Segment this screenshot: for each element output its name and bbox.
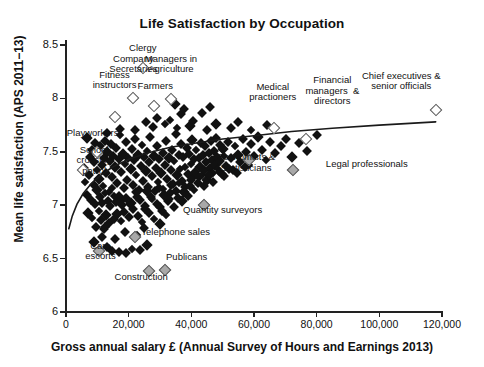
highlighted-point-fitness-instructors[interactable] — [108, 110, 121, 123]
x-tick-label: 40,000 — [175, 318, 207, 330]
data-point — [247, 126, 255, 134]
x-tick-label: 0 — [63, 318, 69, 330]
x-tick-label: 20,000 — [113, 318, 145, 330]
x-tick-label: 80,000 — [301, 318, 333, 330]
y-tick-label: 7.5 — [10, 145, 58, 157]
annotation-label: Fitness instructors — [93, 70, 137, 91]
data-point — [145, 132, 155, 142]
y-tick — [60, 151, 66, 153]
x-tick — [191, 311, 193, 317]
y-axis-line — [65, 40, 67, 313]
annotation-label: Quantity surveyors — [183, 205, 262, 216]
annotation-label: Farmers — [138, 81, 173, 92]
annotation-label: Care escorts — [85, 241, 116, 262]
data-point — [252, 131, 263, 142]
scatter-chart: Life Satisfaction by Occupation Mean lif… — [0, 0, 484, 367]
annotation-label: Telephone sales — [141, 227, 210, 238]
annotation-label: Chief executives & senior officials — [362, 71, 441, 92]
data-point — [247, 139, 257, 149]
y-tick — [60, 258, 66, 260]
annotation-label: School crossing patrol — [77, 145, 112, 177]
data-point — [152, 113, 162, 123]
annotation-label: Legal professionals — [326, 159, 408, 170]
x-tick — [379, 311, 381, 317]
highlighted-point-chief-executives-senior-officials[interactable] — [429, 104, 442, 117]
data-point — [197, 108, 207, 118]
annotation-label: Medical practioners — [249, 82, 296, 103]
data-point — [233, 117, 243, 127]
data-point — [116, 217, 124, 225]
data-point — [202, 125, 212, 135]
x-tick — [316, 311, 318, 317]
data-point — [205, 102, 215, 112]
x-tick — [253, 311, 255, 317]
y-tick-label: 8 — [10, 91, 58, 103]
x-axis-title: Gross annual salary £ (Annual Survey of … — [0, 340, 484, 354]
annotation-label: Managers in Agriculture — [145, 54, 197, 75]
x-tick — [441, 311, 443, 317]
annotation-label: Economists & Statisticians — [217, 152, 275, 173]
data-point — [210, 118, 221, 129]
chart-title: Life Satisfaction by Occupation — [0, 16, 484, 31]
y-tick-label: 7 — [10, 198, 58, 210]
data-point — [302, 146, 312, 156]
data-point — [286, 151, 297, 162]
x-tick-label: 120,000 — [423, 318, 461, 330]
highlighted-point-company-secretaries[interactable] — [127, 92, 140, 105]
x-tick-label: 100,000 — [360, 318, 398, 330]
highlighted-point-farmers[interactable] — [147, 100, 160, 113]
annotation-label: Financial managers & directors — [305, 75, 359, 107]
data-point — [162, 211, 170, 219]
y-tick — [60, 98, 66, 100]
data-point — [169, 202, 179, 212]
y-tick — [60, 204, 66, 206]
annotation-label: Playworkers — [67, 128, 119, 139]
annotation-label: Publicans — [166, 252, 207, 263]
y-tick-label: 6 — [10, 305, 58, 317]
y-tick-label: 8.5 — [10, 38, 58, 50]
highlighted-point-legal-professionals[interactable] — [287, 164, 300, 177]
x-tick — [65, 311, 67, 317]
highlighted-point-medical-practioners[interactable] — [268, 122, 281, 135]
y-tick-label: 6.5 — [10, 252, 58, 264]
x-tick — [128, 311, 130, 317]
annotation-label: Construction — [115, 272, 168, 283]
x-tick-label: 60,000 — [238, 318, 270, 330]
data-point — [161, 136, 171, 146]
data-point — [226, 123, 236, 133]
data-point — [312, 130, 322, 140]
data-point — [265, 137, 275, 147]
y-tick — [60, 44, 66, 46]
y-axis-title: Mean life satisfaction (APS 2011−13) — [12, 14, 26, 264]
data-point — [130, 125, 140, 135]
